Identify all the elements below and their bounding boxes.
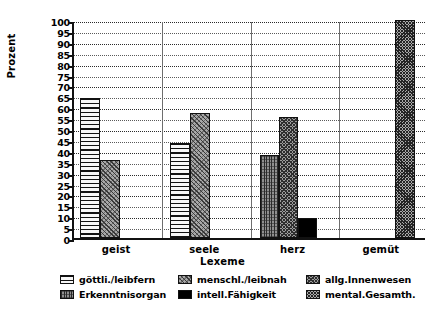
legend-item[interactable]: allg.Innenwesen — [306, 274, 440, 285]
bar[interactable] — [279, 117, 298, 238]
legend-item[interactable]: mental.Gesamth. — [306, 289, 440, 300]
legend-item[interactable]: göttli./leibfern — [60, 274, 178, 285]
legend-label: menschl./leibnah — [197, 274, 287, 285]
chart-figure: Prozent 05101520253035404550556065707580… — [0, 0, 445, 313]
y-axis-tick-labels: 0510152025303540455055606570758085909510… — [0, 22, 70, 240]
bar[interactable] — [190, 113, 210, 238]
bar[interactable] — [100, 160, 120, 238]
legend-label: göttli./leibfern — [79, 274, 155, 285]
legend-label: intell.Fähigkeit — [197, 289, 276, 300]
legend-swatch-icon — [178, 290, 192, 299]
y-axis-tick — [69, 240, 74, 242]
legend-item[interactable]: Erkenntnisorgan — [60, 289, 178, 300]
bar[interactable] — [260, 155, 279, 238]
chart-legend: göttli./leibfernmenschl./leibnahallg.Inn… — [60, 272, 440, 302]
bars — [74, 22, 425, 238]
legend-swatch-icon — [60, 290, 74, 299]
legend-item[interactable]: menschl./leibnah — [178, 274, 306, 285]
legend-swatch-icon — [178, 275, 192, 284]
x-axis-title: Lexeme — [0, 256, 445, 267]
y-axis-tick-label: 100 — [51, 17, 70, 28]
x-axis-category-label: geist — [72, 244, 160, 255]
legend-label: Erkenntnisorgan — [79, 289, 166, 300]
x-axis-category-label: gemüt — [337, 244, 425, 255]
legend-swatch-icon — [306, 275, 320, 284]
legend-item[interactable]: intell.Fähigkeit — [178, 289, 306, 300]
bar[interactable] — [298, 218, 317, 238]
x-axis-category-label: herz — [249, 244, 337, 255]
bar[interactable] — [80, 98, 100, 238]
plot-area — [72, 22, 425, 240]
bar[interactable] — [395, 20, 415, 238]
x-axis-category-label: seele — [160, 244, 248, 255]
bar[interactable] — [170, 143, 190, 238]
legend-label: allg.Innenwesen — [325, 274, 411, 285]
legend-swatch-icon — [60, 275, 74, 284]
legend-label: mental.Gesamth. — [325, 289, 416, 300]
legend-swatch-icon — [306, 290, 320, 299]
